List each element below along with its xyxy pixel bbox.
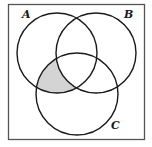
venn-diagram: A B C [0,0,152,147]
label-c: C [111,119,120,132]
label-b: B [123,8,133,21]
label-a: A [21,8,31,21]
